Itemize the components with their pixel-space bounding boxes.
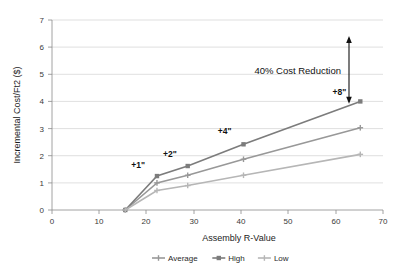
data-point bbox=[358, 99, 362, 103]
data-point bbox=[358, 152, 364, 158]
y-tick-label: 7 bbox=[40, 16, 45, 25]
data-point bbox=[241, 156, 247, 162]
y-tick-label: 2 bbox=[40, 152, 45, 161]
legend-item-low[interactable]: Low bbox=[258, 254, 289, 263]
data-point bbox=[155, 174, 159, 178]
data-point bbox=[186, 164, 190, 168]
legend-item-average[interactable]: Average bbox=[152, 254, 198, 263]
legend-label: High bbox=[228, 254, 244, 263]
legend-item-high[interactable]: High bbox=[212, 254, 244, 263]
x-tick-label: 0 bbox=[50, 217, 55, 226]
y-tick-label: 6 bbox=[40, 43, 45, 52]
x-tick-label: 30 bbox=[190, 217, 199, 226]
y-tick-label: 5 bbox=[40, 70, 45, 79]
legend-label: Average bbox=[168, 254, 198, 263]
x-axis-title: Assembly R-Value bbox=[202, 233, 275, 243]
y-tick-label: 3 bbox=[40, 125, 45, 134]
x-tick-label: 70 bbox=[379, 217, 388, 226]
series-line-average bbox=[125, 128, 360, 210]
y-axis-title: Incremental Cost/Ft2 ($) bbox=[12, 66, 22, 163]
point-label: +8" bbox=[333, 87, 347, 97]
chart-legend: AverageHighLow bbox=[152, 254, 289, 263]
chart-container: 7 6 5 4 3 2 1 0 0 10 20 30 40 50 60 70 A… bbox=[0, 0, 414, 276]
x-tick-label: 20 bbox=[142, 217, 151, 226]
axes bbox=[48, 20, 383, 214]
data-point bbox=[241, 172, 247, 178]
annotation-label: 40% Cost Reduction bbox=[254, 65, 341, 76]
point-label: +4" bbox=[218, 126, 232, 136]
legend-label: Low bbox=[274, 254, 289, 263]
y-tick-label: 0 bbox=[40, 206, 45, 215]
data-point bbox=[358, 125, 364, 131]
x-tick-label: 40 bbox=[237, 217, 246, 226]
point-label: +2" bbox=[163, 149, 177, 159]
data-point bbox=[185, 172, 191, 178]
y-tick-label: 4 bbox=[40, 97, 45, 106]
y-tick-labels: 7 6 5 4 3 2 1 0 bbox=[40, 16, 45, 215]
x-tick-label: 10 bbox=[95, 217, 104, 226]
data-point bbox=[185, 183, 191, 189]
x-tick-labels: 0 10 20 30 40 50 60 70 bbox=[50, 217, 388, 226]
x-tick-label: 60 bbox=[332, 217, 341, 226]
line-chart: 7 6 5 4 3 2 1 0 0 10 20 30 40 50 60 70 A… bbox=[0, 0, 414, 276]
x-tick-label: 50 bbox=[284, 217, 293, 226]
point-label: +1" bbox=[131, 160, 145, 170]
data-point bbox=[241, 142, 245, 146]
y-tick-label: 1 bbox=[40, 179, 45, 188]
series-layer bbox=[122, 99, 363, 213]
